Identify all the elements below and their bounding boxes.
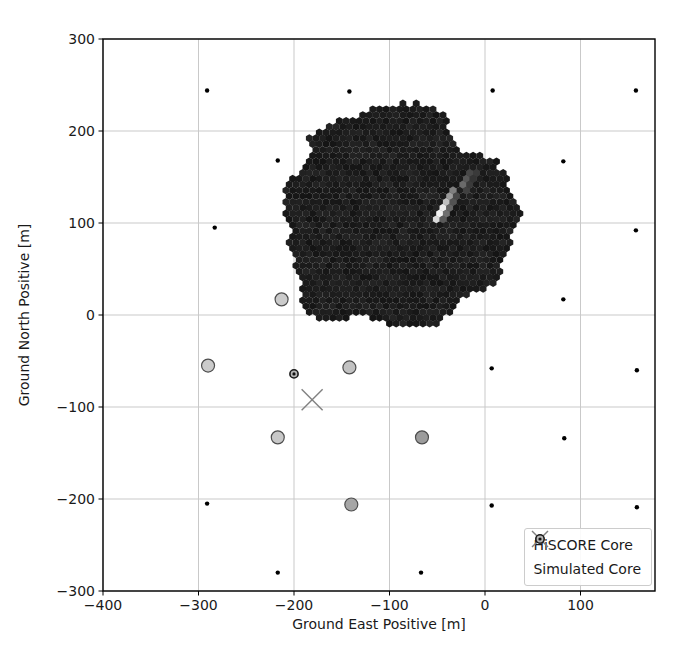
station-dot bbox=[634, 228, 638, 232]
station-dot bbox=[561, 159, 565, 163]
triggered-station bbox=[275, 293, 288, 306]
x-tick-label: −300 bbox=[179, 597, 217, 613]
triggered-station bbox=[343, 361, 356, 374]
figure: −400−300−200−10001003002001000−100−200−3… bbox=[0, 0, 686, 659]
x-tick-label: 0 bbox=[481, 597, 490, 613]
ring-dot-marker-icon bbox=[525, 529, 555, 549]
station-dot bbox=[205, 88, 209, 92]
x-axis-title: Ground East Positive [m] bbox=[103, 616, 655, 632]
legend-item-simulated-core: Simulated Core bbox=[533, 557, 641, 581]
station-dot bbox=[489, 366, 493, 370]
triggered-station bbox=[202, 359, 215, 372]
y-tick-label: 0 bbox=[86, 307, 95, 323]
station-dot bbox=[489, 503, 493, 507]
simulated-core-marker-dot bbox=[292, 372, 295, 375]
station-dot bbox=[276, 158, 280, 162]
y-tick-label: 100 bbox=[68, 215, 95, 231]
y-tick-label: −200 bbox=[57, 491, 95, 507]
station-dot bbox=[419, 570, 423, 574]
y-tick-label: 300 bbox=[68, 31, 95, 47]
station-dot bbox=[562, 436, 566, 440]
station-dot bbox=[490, 88, 494, 92]
x-tick-label: −200 bbox=[275, 597, 313, 613]
station-dot bbox=[347, 89, 351, 93]
x-tick-label: 100 bbox=[567, 597, 594, 613]
legend-label: Simulated Core bbox=[533, 561, 641, 577]
station-dot bbox=[635, 505, 639, 509]
station-dot bbox=[205, 501, 209, 505]
x-tick-label: −400 bbox=[84, 597, 122, 613]
legend: HiSCORE Core Simulated Core bbox=[524, 528, 652, 586]
y-tick-label: 200 bbox=[68, 123, 95, 139]
x-tick-label: −100 bbox=[370, 597, 408, 613]
station-dot bbox=[634, 88, 638, 92]
station-dot bbox=[213, 225, 217, 229]
y-tick-label: −300 bbox=[57, 583, 95, 599]
station-dot bbox=[635, 368, 639, 372]
station-dot bbox=[561, 297, 565, 301]
y-tick-label: −100 bbox=[57, 399, 95, 415]
triggered-station bbox=[345, 498, 358, 511]
y-axis-title: Ground North Positive [m] bbox=[16, 224, 32, 407]
triggered-station bbox=[271, 431, 284, 444]
triggered-station bbox=[415, 431, 428, 444]
station-dot bbox=[276, 570, 280, 574]
